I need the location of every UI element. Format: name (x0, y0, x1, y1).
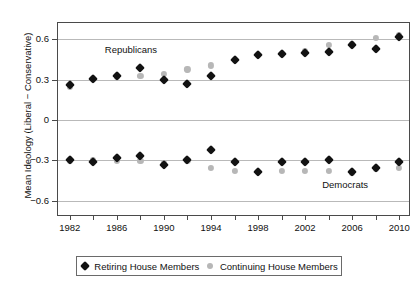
data-point-diamond (88, 74, 98, 84)
data-point-diamond (394, 32, 404, 42)
x-tick-label: 1994 (200, 223, 221, 233)
annotation-democrats: Democrats (322, 179, 368, 190)
legend-item: Continuing House Members (206, 261, 338, 272)
data-point-circle (231, 167, 237, 173)
gridline (58, 39, 409, 40)
data-point-diamond (253, 167, 263, 177)
data-point-diamond (324, 47, 334, 57)
data-point-diamond (371, 44, 381, 54)
x-tick (235, 215, 236, 220)
data-point-diamond (159, 75, 169, 85)
plot-area: 0.60.30−0.3−0.6 198219861990199419982002… (57, 22, 410, 216)
y-tick-label: −0.6 (30, 196, 49, 206)
x-tick (211, 215, 212, 220)
y-tick-label: 0.6 (36, 34, 49, 44)
data-point-diamond (65, 80, 75, 90)
data-point-circle (137, 73, 143, 79)
x-tick (117, 215, 118, 220)
data-point-circle (208, 62, 214, 68)
y-tick (52, 160, 58, 161)
gridline (58, 120, 409, 121)
data-point-diamond (206, 145, 216, 155)
y-axis-title: Mean Ideology (Liberal − Conservative) (22, 8, 33, 223)
x-tick (329, 215, 330, 220)
x-tick (187, 215, 188, 220)
data-point-circle (208, 165, 214, 171)
x-tick-label: 1998 (247, 223, 268, 233)
data-point-diamond (88, 157, 98, 167)
data-point-diamond (371, 163, 381, 173)
data-point-circle (326, 167, 332, 173)
x-tick-label: 2002 (295, 223, 316, 233)
chart-legend: Retiring House MembersContinuing House M… (76, 256, 342, 276)
circle-marker-icon (206, 262, 215, 271)
data-point-diamond (229, 55, 239, 65)
x-tick (352, 215, 353, 220)
chart-figure: Mean Ideology (Liberal − Conservative) 0… (0, 0, 418, 283)
data-point-diamond (135, 63, 145, 73)
x-tick-label: 2006 (342, 223, 363, 233)
y-tick (52, 80, 58, 81)
legend-label: Retiring House Members (94, 261, 199, 272)
y-tick-label: 0.3 (36, 75, 49, 85)
data-point-diamond (347, 167, 357, 177)
data-point-circle (184, 66, 190, 72)
x-tick-label: 1986 (106, 223, 127, 233)
gridline (58, 80, 409, 81)
data-point-diamond (300, 157, 310, 167)
x-tick (70, 215, 71, 220)
data-point-diamond (276, 157, 286, 167)
y-tick (52, 120, 58, 121)
data-point-diamond (182, 155, 192, 165)
data-point-diamond (276, 49, 286, 59)
x-tick-label: 1990 (153, 223, 174, 233)
y-tick (52, 39, 58, 40)
x-tick (305, 215, 306, 220)
data-point-diamond (65, 155, 75, 165)
annotation-republicans: Republicans (105, 44, 157, 55)
x-tick (399, 215, 400, 220)
x-tick (258, 215, 259, 220)
data-point-circle (278, 167, 284, 173)
data-point-diamond (324, 155, 334, 165)
data-point-diamond (347, 40, 357, 50)
x-tick (282, 215, 283, 220)
y-tick-label: −0.3 (30, 156, 49, 166)
legend-item: Retiring House Members (80, 261, 199, 272)
legend-label: Continuing House Members (220, 261, 338, 272)
x-tick (93, 215, 94, 220)
x-tick (140, 215, 141, 220)
data-point-circle (302, 167, 308, 173)
data-point-diamond (229, 157, 239, 167)
y-tick (52, 201, 58, 202)
y-tick-label: 0 (44, 115, 49, 125)
diamond-marker-icon (80, 262, 89, 271)
x-tick-label: 2010 (389, 223, 410, 233)
x-tick (376, 215, 377, 220)
x-tick (164, 215, 165, 220)
data-point-diamond (253, 50, 263, 60)
gridline (58, 201, 409, 202)
x-tick-label: 1982 (59, 223, 80, 233)
